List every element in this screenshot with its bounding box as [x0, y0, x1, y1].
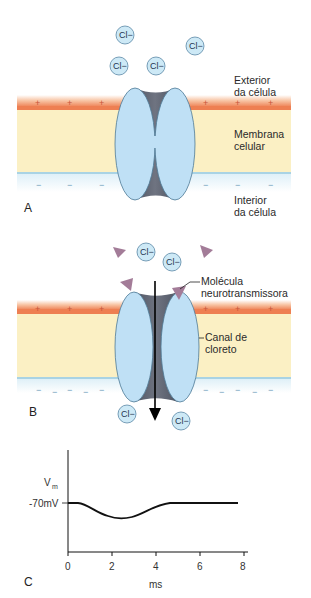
x-ticks: [68, 552, 244, 556]
y-axis-label-subscript: m: [52, 483, 58, 490]
svg-text:+: +: [67, 98, 72, 108]
svg-text:+: +: [235, 98, 240, 108]
label-molecule-2: neurotransmissora: [201, 287, 288, 299]
panel-a: + + + + + + − − − − − − Cl− Cl− Cl− Cl−: [17, 26, 291, 218]
label-channel-2: cloreto: [205, 343, 237, 355]
label-molecule: Molécula: [201, 275, 243, 287]
neurotransmitter-molecules: [113, 245, 213, 300]
svg-text:+: +: [203, 304, 208, 314]
svg-text:−: −: [99, 180, 104, 190]
panel-letter-c: C: [24, 575, 33, 589]
panel-c-chart: 0 2 4 6 8 ms V m -70mV C: [24, 450, 248, 590]
panel-b: + + + + + + − − − − − − − − − −: [17, 243, 291, 430]
svg-text:2: 2: [109, 561, 115, 572]
chloride-ion: Cl−: [172, 412, 190, 430]
chloride-ions-b-outside: Cl− Cl−: [137, 243, 181, 271]
svg-text:Cl−: Cl−: [140, 247, 154, 257]
svg-text:−: −: [268, 180, 273, 190]
svg-text:Cl−: Cl−: [121, 409, 135, 419]
svg-text:Cl−: Cl−: [189, 41, 203, 51]
x-tick-labels: 0 2 4 6 8: [65, 561, 246, 572]
label-exterior: Exterior: [234, 74, 271, 86]
label-channel: Canal de: [205, 331, 247, 343]
svg-text:−: −: [268, 385, 273, 395]
chloride-ion: Cl−: [186, 37, 204, 55]
label-exterior-2: da célula: [234, 86, 276, 98]
neurotransmitter-molecule: [113, 247, 126, 258]
svg-text:−: −: [67, 385, 72, 395]
label-membrane: Membrana: [234, 128, 284, 140]
svg-text:+: +: [235, 304, 240, 314]
svg-text:Cl−: Cl−: [113, 61, 127, 71]
svg-text:−: −: [52, 387, 57, 397]
svg-text:8: 8: [240, 561, 246, 572]
chloride-channel-closed: [115, 88, 195, 200]
resting-potential-label: -70mV: [29, 498, 59, 509]
panel-letter-a: A: [24, 201, 32, 215]
svg-text:Cl−: Cl−: [150, 61, 164, 71]
svg-text:−: −: [83, 387, 88, 397]
chloride-ion: Cl−: [110, 57, 128, 75]
chloride-channel-open: [115, 292, 199, 402]
svg-text:0: 0: [65, 561, 71, 572]
svg-text:−: −: [203, 180, 208, 190]
chloride-ion: Cl−: [147, 57, 165, 75]
svg-text:+: +: [67, 304, 72, 314]
svg-text:+: +: [203, 98, 208, 108]
panel-letter-b: B: [29, 405, 37, 419]
svg-text:+: +: [35, 98, 40, 108]
svg-text:6: 6: [197, 561, 203, 572]
label-interior-2: da célula: [234, 206, 276, 218]
svg-text:−: −: [99, 385, 104, 395]
chloride-ions-a: Cl− Cl− Cl− Cl−: [110, 26, 204, 75]
svg-text:+: +: [268, 304, 273, 314]
svg-text:Cl−: Cl−: [175, 416, 189, 426]
neurotransmitter-molecule: [200, 245, 213, 258]
svg-text:−: −: [67, 180, 72, 190]
chloride-ion: Cl−: [137, 243, 155, 261]
svg-text:+: +: [268, 98, 273, 108]
label-membrane-2: celular: [234, 140, 265, 152]
chloride-ion: Cl−: [163, 253, 181, 271]
neurotransmitter-molecule: [120, 278, 133, 291]
x-axis-label: ms: [149, 579, 162, 590]
svg-text:−: −: [235, 180, 240, 190]
svg-text:Cl−: Cl−: [119, 30, 133, 40]
svg-text:+: +: [99, 304, 104, 314]
svg-text:−: −: [235, 385, 240, 395]
label-interior: Interior: [234, 194, 267, 206]
svg-text:−: −: [252, 387, 257, 397]
svg-text:−: −: [36, 385, 41, 395]
diagram-canvas: + + + + + + − − − − − − Cl− Cl− Cl− Cl−: [0, 0, 311, 598]
chloride-ion: Cl−: [116, 26, 134, 44]
chloride-ion: Cl−: [118, 405, 136, 423]
svg-text:+: +: [99, 98, 104, 108]
svg-text:+: +: [35, 304, 40, 314]
membrane-potential-curve: [68, 503, 238, 518]
svg-text:Cl−: Cl−: [166, 257, 180, 267]
y-axis-label: V: [44, 477, 51, 488]
svg-text:−: −: [203, 385, 208, 395]
svg-text:4: 4: [153, 561, 159, 572]
svg-text:−: −: [219, 387, 224, 397]
svg-text:−: −: [36, 180, 41, 190]
